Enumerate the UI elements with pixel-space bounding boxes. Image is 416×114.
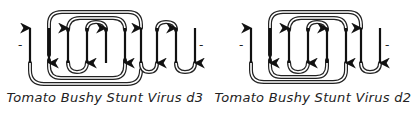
n-terminus-label: - [18, 38, 22, 52]
topology-diagram-d3 [0, 0, 210, 90]
caption-d3: Tomato Bushy Stunt Virus d3 [0, 90, 210, 105]
diagram-d2: - - Tomato Bushy Stunt Virus d2 [210, 0, 416, 114]
beta-strands [30, 28, 195, 63]
beta-strands [251, 28, 380, 63]
diagram-d3: - - Tomato Bushy Stunt Virus d3 [0, 0, 210, 114]
c-terminus-label: - [385, 38, 389, 52]
caption-d2: Tomato Bushy Stunt Virus d2 [210, 90, 416, 105]
connection-loops [30, 12, 195, 84]
c-terminus-label: - [199, 38, 203, 52]
n-terminus-label: - [239, 38, 243, 52]
